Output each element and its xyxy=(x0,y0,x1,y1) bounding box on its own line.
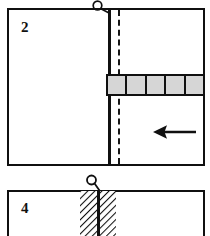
figure-root: 2 xyxy=(0,0,210,236)
panel-4-q-callout-marker xyxy=(83,174,111,192)
segment-cell xyxy=(186,76,203,94)
panel-2-left-arrow xyxy=(152,122,198,142)
panel-2-q-callout-marker xyxy=(88,0,118,14)
segment-cell xyxy=(127,76,146,94)
panel-4: 4 xyxy=(0,170,210,236)
panel-2-segmented-gray-bar xyxy=(106,74,205,96)
segment-cell xyxy=(147,76,166,94)
panel-4-vertical-solid-divider xyxy=(97,190,100,236)
panel-2-number-label: 2 xyxy=(21,20,29,35)
panel-4-number-label: 4 xyxy=(21,201,29,216)
segment-cell xyxy=(166,76,185,94)
panel-2: 2 xyxy=(0,0,210,170)
segment-cell xyxy=(108,76,127,94)
